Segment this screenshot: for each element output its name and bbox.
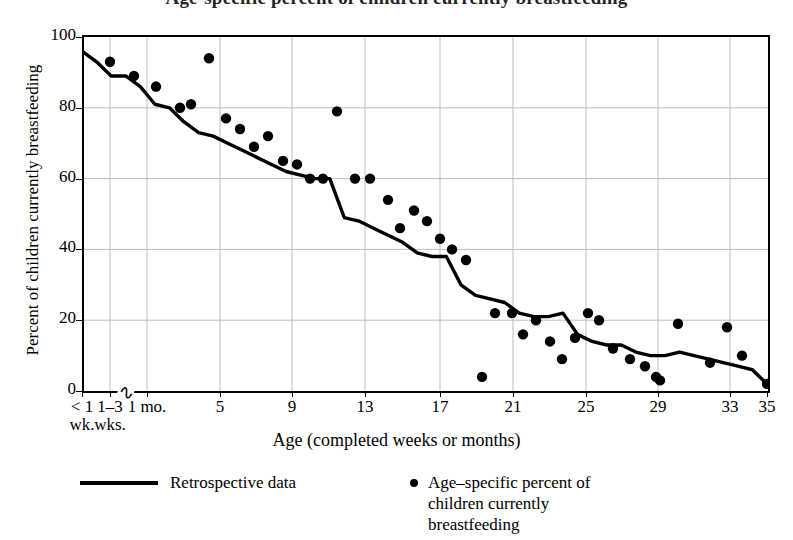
data-point <box>531 315 541 325</box>
data-point <box>332 106 342 116</box>
x-tick-label: 25 <box>578 397 595 416</box>
y-axis-title: Percent of children currently breastfeed… <box>23 15 43 405</box>
data-point <box>350 173 360 183</box>
data-point <box>422 216 432 226</box>
legend-label-line-1: Age–specific percent of <box>428 473 590 492</box>
x-tick--1-wk-: < 1wk. <box>69 398 94 434</box>
x-tick-label: < 1 <box>71 397 93 416</box>
x-tick-mark <box>220 391 221 397</box>
x-tick-label: 35 <box>759 397 776 416</box>
x-tick-1-3-wks-: 1–3wks. <box>94 398 126 434</box>
x-tick-label: 29 <box>650 397 667 416</box>
x-tick-mark <box>513 391 514 397</box>
plot-area <box>82 35 770 393</box>
chart-legend: Retrospective data Age–specific percent … <box>0 472 793 540</box>
data-point <box>518 329 528 339</box>
legend-item-retrospective: Retrospective data <box>80 472 296 493</box>
x-tick-label: 1 mo. <box>128 397 167 416</box>
line-swatch-icon <box>80 481 158 485</box>
data-point <box>204 53 214 63</box>
data-point <box>594 315 604 325</box>
data-point <box>435 234 445 244</box>
data-point <box>235 124 245 134</box>
data-point <box>292 159 302 169</box>
data-point <box>608 343 618 353</box>
x-tick-35: 35 <box>759 398 776 416</box>
age-specific-scatter-points <box>105 53 768 389</box>
data-point <box>490 308 500 318</box>
vertical-gridlines <box>110 37 730 391</box>
data-point <box>673 319 683 329</box>
x-tick-label: 9 <box>288 397 297 416</box>
legend-label-age-specific: Age–specific percent of children current… <box>428 472 708 535</box>
x-tick-17: 17 <box>432 398 449 416</box>
x-tick-label: 17 <box>432 397 449 416</box>
chart-figure: Age-specific percent of children current… <box>0 0 793 540</box>
data-point <box>409 205 419 215</box>
data-point <box>365 173 375 183</box>
x-tick-label: 21 <box>505 397 522 416</box>
x-tick-21: 21 <box>505 398 522 416</box>
x-tick-mark <box>730 391 731 397</box>
x-tick-label: 5 <box>216 397 225 416</box>
x-tick-mark <box>147 391 148 397</box>
x-tick-13: 13 <box>357 398 374 416</box>
data-point <box>507 308 517 318</box>
x-tick-mark <box>82 391 83 397</box>
x-tick-9: 9 <box>288 398 297 416</box>
data-point <box>461 255 471 265</box>
x-tick-mark <box>292 391 293 397</box>
data-point <box>557 354 567 364</box>
data-point <box>477 372 487 382</box>
x-tick-29: 29 <box>650 398 667 416</box>
data-point <box>221 113 231 123</box>
legend-label-line-3: breastfeeding <box>428 515 520 534</box>
x-tick-33: 33 <box>722 398 739 416</box>
data-point <box>186 99 196 109</box>
data-point <box>129 71 139 81</box>
legend-label-line-2: children currently <box>428 494 549 513</box>
x-tick-mark <box>658 391 659 397</box>
page-title: Age-specific percent of children current… <box>0 0 793 9</box>
legend-item-age-specific: Age–specific percent of children current… <box>410 472 740 535</box>
data-point <box>263 131 273 141</box>
horizontal-gridlines <box>84 108 768 320</box>
data-point <box>570 333 580 343</box>
data-point <box>705 357 715 367</box>
x-tick-mark <box>110 391 111 397</box>
x-tick-5: 5 <box>216 398 225 416</box>
data-point <box>175 103 185 113</box>
x-tick-1-mo-: 1 mo. <box>128 398 167 416</box>
x-tick-label: 33 <box>722 397 739 416</box>
data-point <box>249 142 259 152</box>
x-tick-mark <box>365 391 366 397</box>
data-point <box>640 361 650 371</box>
x-tick-mark <box>767 391 768 397</box>
data-point <box>395 223 405 233</box>
chart-canvas <box>84 37 768 391</box>
data-point <box>278 156 288 166</box>
data-point <box>722 322 732 332</box>
x-tick-25: 25 <box>578 398 595 416</box>
x-tick-mark <box>586 391 587 397</box>
data-point <box>737 350 747 360</box>
data-point <box>447 244 457 254</box>
data-point <box>545 336 555 346</box>
data-point <box>655 375 665 385</box>
data-point <box>151 81 161 91</box>
dot-swatch-icon <box>410 479 418 487</box>
data-point <box>305 173 315 183</box>
data-point <box>105 57 115 67</box>
x-axis-title: Age (completed weeks or months) <box>0 430 793 451</box>
x-tick-label: 13 <box>357 397 374 416</box>
legend-label-retrospective: Retrospective data <box>170 473 296 492</box>
data-point <box>383 195 393 205</box>
data-point <box>625 354 635 364</box>
data-point <box>583 308 593 318</box>
x-tick-mark <box>440 391 441 397</box>
data-point <box>318 173 328 183</box>
